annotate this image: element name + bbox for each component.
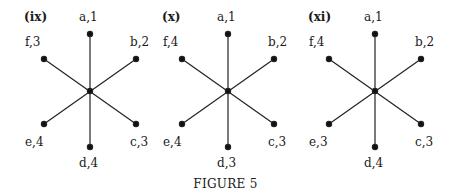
node-f [41,56,46,61]
node-label-f: f,3 [25,36,40,48]
node-c [418,121,423,126]
star-graph [0,0,150,165]
panel-x: (x) a,1 b,2 c,3 d,3 e,4 f,4 [138,0,288,165]
node-label-b: b,2 [268,36,287,48]
node-label-e: e,3 [309,136,328,148]
node-a [225,31,230,36]
node-a [87,31,92,36]
node-label-a: a,1 [217,11,236,23]
node-d [87,144,92,149]
node-label-c: c,3 [268,136,286,148]
node-e [179,121,184,126]
panel-label: (ix) [24,11,47,23]
node-label-d: d,4 [364,157,383,169]
node-f [326,56,331,61]
node-e [326,121,331,126]
panel-ix: (ix) a,1 b,2 c,3 d,4 e,4 f,3 [0,0,150,165]
panel-label: (xi) [308,11,331,23]
node-c [271,121,276,126]
node-label-a: a,1 [364,11,383,23]
node-d [372,144,377,149]
node-label-d: d,3 [217,157,236,169]
node-label-f: f,4 [163,36,178,48]
node-d [225,144,230,149]
node-center [372,88,377,93]
figure-caption: FIGURE 5 [0,177,451,191]
star-graph [138,0,288,165]
node-center [225,88,230,93]
node-e [41,121,46,126]
node-label-c: c,3 [415,136,433,148]
panel-label: (x) [162,11,181,23]
node-center [87,88,92,93]
node-b [418,56,423,61]
node-label-f: f,4 [309,36,324,48]
node-label-d: d,4 [79,157,98,169]
node-label-e: e,4 [25,136,44,148]
panel-xi: (xi) a,1 b,2 c,3 d,4 e,3 f,4 [287,0,437,165]
node-label-b: b,2 [415,36,434,48]
node-b [271,56,276,61]
node-label-a: a,1 [79,11,98,23]
node-a [372,31,377,36]
node-label-e: e,4 [163,136,182,148]
node-f [179,56,184,61]
